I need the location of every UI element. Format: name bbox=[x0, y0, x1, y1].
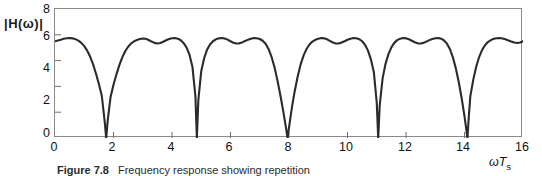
x-axis-label-main: ωT bbox=[489, 155, 506, 169]
x-tick-label-12: 12 bbox=[393, 140, 417, 154]
x-axis-label-subscript: s bbox=[506, 162, 511, 172]
x-tick-label-2: 2 bbox=[100, 140, 124, 154]
plot-area bbox=[54, 8, 522, 137]
x-tick-label-4: 4 bbox=[159, 140, 183, 154]
figure-container: |H(ω)| 8 6 4 2 0 0 2 4 bbox=[0, 0, 542, 176]
figure-caption: Figure 7.8Frequency response showing rep… bbox=[57, 164, 310, 176]
figure-caption-text: Frequency response showing repetition bbox=[118, 164, 310, 176]
x-tick-label-16: 16 bbox=[510, 140, 534, 154]
x-tick-label-6: 6 bbox=[217, 140, 241, 154]
y-tick-label-8: 8 bbox=[30, 2, 50, 16]
y-tick-label-4: 4 bbox=[30, 61, 50, 75]
y-axis-ticks bbox=[55, 35, 61, 112]
y-tick-label-6: 6 bbox=[30, 29, 50, 43]
x-tick-label-0: 0 bbox=[42, 140, 66, 154]
x-tick-label-10: 10 bbox=[334, 140, 358, 154]
response-curve-svg bbox=[55, 9, 523, 138]
y-tick-label-2: 2 bbox=[30, 93, 50, 107]
y-tick-label-0: 0 bbox=[30, 126, 50, 140]
x-tick-label-14: 14 bbox=[451, 140, 475, 154]
frequency-response-curve bbox=[55, 38, 523, 138]
figure-caption-number: Figure 7.8 bbox=[57, 164, 109, 176]
x-axis-label: ωTs bbox=[489, 155, 511, 172]
x-tick-label-8: 8 bbox=[276, 140, 300, 154]
